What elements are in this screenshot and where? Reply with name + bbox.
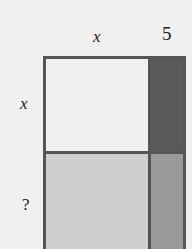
label-side-question: ? <box>22 196 30 213</box>
label-side-x: x <box>20 95 28 112</box>
label-top-x: x <box>93 28 101 45</box>
label-top-5: 5 <box>162 24 172 43</box>
horizontal-divider <box>43 151 186 154</box>
